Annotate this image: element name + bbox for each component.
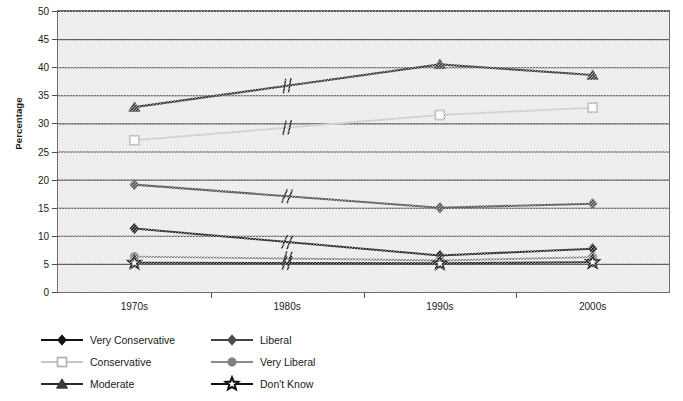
data-point-marker [435,110,444,119]
series-very-conservative [130,223,597,260]
legend-item-moderate[interactable]: Moderate [40,374,134,394]
y-tick-label: 25 [3,146,49,157]
legend-label: Very Conservative [84,334,175,346]
y-tick-mark [52,67,57,68]
y-tick-mark [52,95,57,96]
data-point-marker [588,103,597,112]
data-point-marker [228,335,237,345]
y-tick-label: 0 [3,287,49,298]
legend-marker-filled-diamond-icon [210,331,254,349]
series-line [134,262,592,263]
legend-marker-filled-circle-icon [210,353,254,371]
x-tick-label-1990s: 1990s [426,301,453,312]
x-tick-mark [364,293,365,298]
data-point-marker [130,179,139,189]
y-tick-mark [52,11,57,12]
y-tick-label: 45 [3,34,49,45]
x-tick-label-1970s: 1970s [121,301,148,312]
y-tick-mark [52,39,57,40]
data-point-marker [435,203,444,213]
legend-label: Conservative [84,356,151,368]
legend-label: Liberal [254,334,292,346]
y-tick-mark [52,236,57,237]
data-point-marker [58,358,67,367]
y-tick-label: 5 [3,258,49,269]
legend-item-very-conservative[interactable]: Very Conservative [40,330,175,350]
y-tick-label: 30 [3,118,49,129]
data-point-marker [434,257,447,269]
y-tick-label: 50 [3,6,49,17]
series-line [134,228,592,255]
legend-marker-open-star-icon [210,375,254,393]
legend-marker-filled-diamond-icon [40,331,84,349]
chart-legend: Very ConservativeConservativeModerateLib… [40,330,370,396]
series-line [134,185,592,208]
legend-label: Don't Know [254,378,313,390]
y-tick-label: 10 [3,230,49,241]
legend-item-liberal[interactable]: Liberal [210,330,292,350]
y-tick-mark [52,292,57,293]
x-tick-mark [211,293,212,298]
legend-label: Very Liberal [254,356,315,368]
series-moderate [129,59,598,111]
legend-item-very-liberal[interactable]: Very Liberal [210,352,315,372]
y-tick-label: 20 [3,174,49,185]
legend-marker-open-square-icon [40,353,84,371]
plot-svg [58,11,669,292]
x-tick-mark [516,293,517,298]
y-tick-label: 15 [3,202,49,213]
x-tick-label-1980s: 1980s [274,301,301,312]
plot-area [57,10,670,293]
y-tick-label: 35 [3,90,49,101]
data-point-marker [226,377,239,389]
y-tick-label: 40 [3,62,49,73]
data-point-marker [58,335,67,345]
legend-item-conservative[interactable]: Conservative [40,352,151,372]
y-tick-mark [52,180,57,181]
data-point-marker [130,223,139,233]
series-line [134,257,592,261]
data-point-marker [588,199,597,209]
legend-label: Moderate [84,378,134,390]
legend-item-don-t-know[interactable]: Don't Know [210,374,313,394]
y-tick-mark [52,208,57,209]
data-point-marker [130,136,139,145]
y-tick-mark [52,123,57,124]
y-tick-mark [52,152,57,153]
legend-marker-filled-triangle-icon [40,375,84,393]
data-point-marker [588,244,597,254]
y-tick-mark [52,264,57,265]
line-chart: Percentage 05101520253035404550 1970s198… [0,0,683,401]
x-tick-label-2000s: 2000s [579,301,606,312]
data-point-marker [228,358,237,367]
series-line [134,64,592,107]
